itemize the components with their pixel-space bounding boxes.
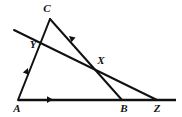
geometry-figure: C Y X A B Z bbox=[0, 0, 182, 117]
vertex-label-A: A bbox=[12, 102, 20, 114]
vertex-label-C: C bbox=[43, 2, 51, 14]
arrow-mark-base-A-B bbox=[47, 96, 53, 103]
vertex-label-B: B bbox=[119, 102, 127, 114]
side-A-C bbox=[18, 19, 50, 100]
vertex-label-X: X bbox=[96, 54, 105, 66]
cevian-C-B bbox=[50, 19, 122, 100]
figure-canvas: C Y X A B Z bbox=[0, 0, 182, 117]
vertex-label-Z: Z bbox=[153, 102, 161, 114]
vertex-label-Y: Y bbox=[30, 38, 38, 50]
